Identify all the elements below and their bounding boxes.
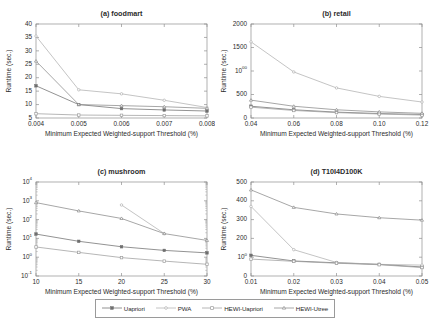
- series-hewi-utree: [34, 201, 208, 241]
- y-tick-label: 40: [25, 20, 33, 27]
- legend-entry[interactable]: HEWI-Uapriori: [202, 304, 263, 312]
- x-tick-label: 0.08: [330, 120, 343, 127]
- y-tick-label: 103: [22, 195, 32, 203]
- y-axis-label: Runtime (sec.): [220, 50, 228, 93]
- y-axis-label: Runtime (sec.): [220, 208, 228, 251]
- subplot-d-canvas: (d) T10I4D100K01002003004005000.010.020.…: [215, 160, 430, 310]
- y-tick-label: 1500: [233, 43, 248, 50]
- y-axis-label: Runtime (sec.): [5, 50, 13, 93]
- subplot-c-mushroom: (c) mushroom10-1100101102103104101520253…: [0, 160, 215, 310]
- subplot-title: (a) foodmart: [101, 9, 144, 18]
- x-tick-label: 0.02: [288, 278, 301, 285]
- series-hewi-uapriori: [35, 246, 209, 266]
- x-axis-label: Minimum Expected Weighted-support Thresh…: [260, 130, 413, 138]
- legend-label: PWA: [178, 305, 192, 312]
- subplot-title: (d) T10I4D100K: [311, 167, 364, 176]
- y-tick-label: 25: [25, 60, 33, 67]
- x-tick-label: 25: [161, 278, 169, 285]
- x-tick-label: 0.04: [245, 120, 258, 127]
- y-tick-label: 104: [22, 177, 32, 185]
- subplot-title: (b) retail: [322, 9, 350, 18]
- y-tick-label: 20: [25, 73, 33, 80]
- x-tick-label: 0.01: [245, 278, 258, 285]
- y-tick-label: 500: [236, 90, 247, 97]
- x-axis-label: Minimum Expected Weighted-support Thresh…: [260, 288, 413, 296]
- legend-entry[interactable]: Uapriori: [102, 304, 145, 312]
- legend-label: Uapriori: [124, 305, 145, 312]
- y-tick-label: 101: [22, 233, 32, 241]
- series-pwa: [120, 204, 165, 235]
- legend-marker-osquare-icon: [202, 304, 222, 312]
- series-hewi-uapriori: [250, 258, 424, 269]
- subplot-a-canvas: (a) foodmart5101520253035400.0040.0050.0…: [0, 2, 215, 152]
- x-tick-label: 0.005: [71, 120, 87, 127]
- y-tick-label: 400: [236, 196, 247, 203]
- y-tick-label: 10: [25, 100, 33, 107]
- x-tick-label: 20: [118, 278, 126, 285]
- subplot-d-t10i4d100k: (d) T10I4D100K01002003004005000.010.020.…: [215, 160, 430, 310]
- y-tick-label: 300: [236, 215, 247, 222]
- y-tick-label: 100: [22, 252, 32, 260]
- subplot-b-retail: (b) retail05001000150020000.040.060.080.…: [215, 2, 430, 152]
- series-uapriori: [35, 233, 209, 254]
- series-pwa: [250, 41, 424, 104]
- x-tick-label: 0.007: [156, 120, 172, 127]
- subplot-c-canvas: (c) mushroom10-1100101102103104101520253…: [0, 160, 215, 310]
- y-tick-label: 1000: [235, 66, 248, 74]
- x-tick-label: 0.06: [288, 120, 301, 127]
- x-tick-label: 0.10: [373, 120, 386, 127]
- y-tick-label: 30: [25, 47, 33, 54]
- series-pwa: [35, 35, 209, 109]
- legend-entry[interactable]: PWA: [156, 304, 192, 312]
- x-tick-label: 15: [75, 278, 83, 285]
- x-axis-label: Minimum Expected Weighted-support Thresh…: [45, 288, 198, 296]
- x-tick-label: 10: [32, 278, 40, 285]
- x-tick-label: 0.05: [416, 278, 429, 285]
- y-axis-label: Runtime (sec.): [5, 208, 13, 251]
- legend-label: HEWI-Utree: [296, 305, 328, 312]
- series-uapriori: [35, 84, 209, 112]
- x-tick-label: 0.03: [330, 278, 343, 285]
- subplot-title: (c) mushroom: [98, 167, 146, 176]
- y-tick-label: 200: [236, 234, 247, 241]
- y-tick-label: 102: [22, 214, 32, 222]
- series-hewi-utree: [249, 188, 423, 221]
- y-tick-label: 35: [25, 33, 33, 40]
- y-tick-label: 15: [25, 87, 33, 94]
- legend-box: UaprioriPWAHEWI-UaprioriHEWI-Utree: [95, 299, 335, 318]
- plot-frame: [36, 182, 207, 276]
- x-tick-label: 0.12: [416, 120, 429, 127]
- y-tick-label: 2000: [233, 20, 248, 27]
- legend: UaprioriPWAHEWI-UaprioriHEWI-Utree: [0, 297, 430, 319]
- legend-label: HEWI-Uapriori: [224, 305, 263, 312]
- x-tick-label: 0.04: [373, 278, 386, 285]
- legend-marker-otriangle-icon: [274, 304, 294, 312]
- x-tick-label: 30: [203, 278, 211, 285]
- figure-runtime-comparison: (a) foodmart5101520253035400.0040.0050.0…: [0, 0, 430, 329]
- subplot-a-foodmart: (a) foodmart5101520253035400.0040.0050.0…: [0, 2, 215, 152]
- y-tick-label: 100: [237, 252, 247, 260]
- legend-marker-ocircle-icon: [156, 304, 176, 312]
- y-tick-label: 10-1: [21, 271, 33, 279]
- y-tick-label: 500: [236, 178, 247, 185]
- series-hewi-uapriori: [35, 112, 209, 117]
- x-tick-label: 0.004: [28, 120, 44, 127]
- x-tick-label: 0.006: [114, 120, 130, 127]
- x-axis-label: Minimum Expected Weighted-support Thresh…: [45, 130, 198, 138]
- legend-marker-fsquare-icon: [102, 304, 122, 312]
- legend-entry[interactable]: HEWI-Utree: [274, 304, 328, 312]
- subplot-b-canvas: (b) retail05001000150020000.040.060.080.…: [215, 2, 430, 152]
- x-tick-label: 0.008: [199, 120, 215, 127]
